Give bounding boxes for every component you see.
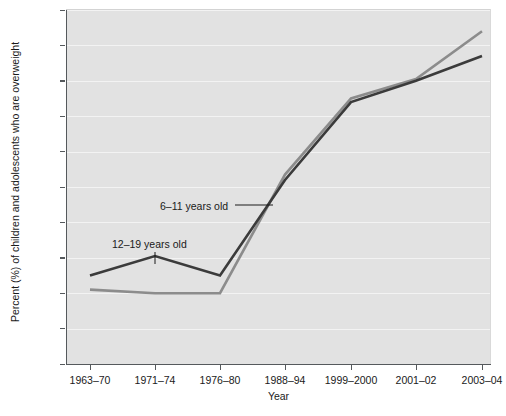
- y-axis-title-text: Percent (%) of children and adolescents …: [9, 17, 22, 347]
- x-tick-mark-7: [482, 365, 483, 370]
- gridline-8: [67, 222, 491, 223]
- y-tick-mark-6: [60, 257, 65, 258]
- gridline-18: [67, 45, 491, 46]
- y-tick-mark-14: [60, 116, 65, 117]
- y-tick-mark-16: [60, 80, 65, 81]
- y-tick-mark-20: [60, 10, 65, 11]
- x-tick-mark-3: [220, 365, 221, 370]
- plot-frame-top: [66, 9, 491, 10]
- gridline-16: [67, 81, 491, 82]
- gridline-12: [67, 152, 491, 153]
- gridline-4: [67, 293, 491, 294]
- plot-frame-right: [490, 9, 491, 365]
- plot-area: [66, 10, 491, 364]
- y-tick-mark-4: [60, 293, 65, 294]
- gridline-20: [67, 10, 491, 11]
- series-annotation-6-11-years-old: 6–11 years old: [160, 200, 228, 212]
- y-tick-mark-12: [60, 151, 65, 152]
- x-tick-label-2003-04: 2003–04: [436, 374, 506, 386]
- gridline-14: [67, 116, 491, 117]
- x-axis-line: [66, 364, 491, 365]
- y-tick-mark-8: [60, 222, 65, 223]
- y-axis-title: Percent (%) of children and adolescents …: [0, 0, 30, 364]
- y-tick-mark-10: [60, 187, 65, 188]
- x-tick-mark-2: [155, 365, 156, 370]
- y-tick-mark-2: [60, 328, 65, 329]
- gridline-6: [67, 258, 491, 259]
- y-tick-mark-18: [60, 45, 65, 46]
- x-tick-mark-5: [351, 365, 352, 370]
- series-annotation-12-19-years-old: 12–19 years old: [112, 238, 187, 250]
- x-tick-mark-1: [90, 365, 91, 370]
- y-tick-mark-0: [60, 364, 65, 365]
- chart-figure: Percent (%) of children and adolescents …: [0, 0, 506, 416]
- x-tick-mark-6: [416, 365, 417, 370]
- x-axis-title: Year: [66, 390, 491, 402]
- gridline-2: [67, 329, 491, 330]
- gridline-10: [67, 187, 491, 188]
- x-tick-mark-4: [285, 365, 286, 370]
